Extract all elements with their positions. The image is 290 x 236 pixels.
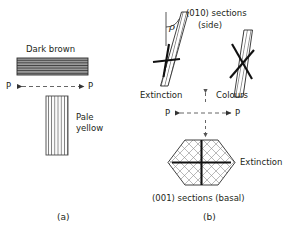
mineral-optics-figure: Dark brown P P Pale yellow (a) (010) sec… <box>0 0 290 236</box>
polarizer-right-label-a: P <box>88 81 93 91</box>
pale-yellow-label-line1: Pale <box>76 112 94 122</box>
figure-drawing <box>0 0 290 236</box>
section-010-heading-line1: (010) sections <box>186 8 247 18</box>
polarizer-right-label-b: P <box>235 108 240 118</box>
dark-brown-label: Dark brown <box>26 44 75 54</box>
section-001-caption: (001) sections (basal) <box>152 193 245 203</box>
pale-yellow-label-line2: yellow <box>76 123 103 133</box>
pale-yellow-prism <box>46 96 68 155</box>
extinction-label-side: Extinction <box>140 90 182 100</box>
polarizer-left-label-a: P <box>6 81 11 91</box>
panel-a-caption: (a) <box>57 212 70 222</box>
rho-angle-label: ρ <box>169 22 175 32</box>
panel-b-caption: (b) <box>203 212 216 222</box>
section-010-heading-line2: (side) <box>198 20 222 30</box>
section-001-basal <box>168 140 235 185</box>
dark-brown-prism <box>17 58 88 75</box>
colours-label-side: Colours <box>216 90 248 100</box>
section-010-colours <box>230 30 254 97</box>
polarizer-left-label-b: P <box>165 108 170 118</box>
extinction-label-basal: Extinction <box>240 157 282 167</box>
